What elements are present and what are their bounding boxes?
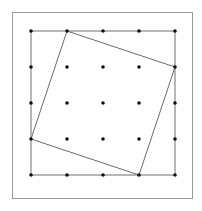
grid-dot <box>137 29 141 33</box>
geoboard-diagram <box>0 0 202 211</box>
grid-dot <box>173 173 177 177</box>
grid-dot <box>101 137 105 141</box>
grid-dot <box>101 101 105 105</box>
grid-dot <box>29 101 33 105</box>
grid-dot <box>101 65 105 69</box>
grid-dot <box>173 29 177 33</box>
grid-dot <box>101 173 105 177</box>
dot-grid <box>29 29 177 177</box>
grid-dot <box>65 173 69 177</box>
grid-dot <box>137 173 141 177</box>
grid-dot <box>101 29 105 33</box>
grid-dot <box>173 101 177 105</box>
grid-dot <box>137 65 141 69</box>
outer-frame <box>13 13 193 199</box>
grid-dot <box>137 137 141 141</box>
grid-dot <box>65 65 69 69</box>
grid-dot <box>65 137 69 141</box>
grid-dot <box>173 137 177 141</box>
grid-dot <box>29 29 33 33</box>
grid-dot <box>65 29 69 33</box>
grid-dot <box>173 65 177 69</box>
grid-dot <box>65 101 69 105</box>
grid-dot <box>137 101 141 105</box>
grid-dot <box>29 65 33 69</box>
grid-dot <box>29 173 33 177</box>
grid-dot <box>29 137 33 141</box>
